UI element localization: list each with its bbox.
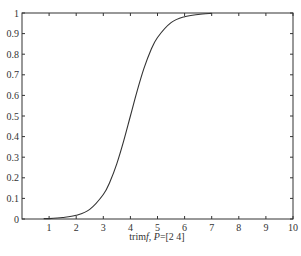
y-tick-label: 0.1 (7, 193, 20, 204)
y-tick-label: 0.7 (7, 69, 20, 80)
chart: 00.10.20.30.40.50.60.70.80.91 1234567891… (0, 0, 301, 256)
x-tick-label: 2 (74, 222, 79, 233)
y-tick-label: 0.4 (7, 131, 20, 142)
y-tick-label: 0.5 (7, 111, 20, 122)
plot-area (22, 13, 293, 219)
x-tick-label: 3 (101, 222, 106, 233)
x-axis-label-part: =[2 4] (160, 231, 185, 242)
x-tick-label: 8 (236, 222, 241, 233)
x-axis-label-part: P (153, 231, 160, 242)
x-tick-label: 7 (209, 222, 214, 233)
x-axis-label: trimf, P=[2 4] (129, 231, 184, 242)
x-tick-label: 9 (263, 222, 268, 233)
y-tick-label: 0 (14, 214, 19, 225)
y-tick-label: 0.9 (7, 28, 20, 39)
x-tick-label: 10 (288, 222, 298, 233)
y-tick-label: 0.2 (7, 172, 20, 183)
x-axis-label-part: trim (129, 231, 146, 242)
y-tick-label: 0.8 (7, 49, 20, 60)
y-tick-label: 0.6 (7, 90, 20, 101)
x-tick-label: 1 (47, 222, 52, 233)
y-tick-label: 1 (14, 8, 19, 19)
y-tick-label: 0.3 (7, 152, 20, 163)
